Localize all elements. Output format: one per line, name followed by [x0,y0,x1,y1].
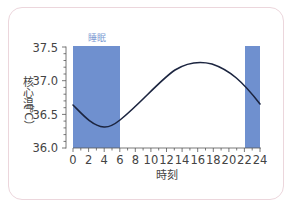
svg-text:4: 4 [101,153,108,167]
x-tick-labels: 0 2 4 6 8 10 12 14 16 18 20 22 24 [69,153,267,167]
svg-text:14: 14 [175,153,190,167]
x-axis [73,148,261,152]
y-tick-36-0: 36.0 [32,141,58,155]
y-axis-title: 核 心 温 （℃） [22,75,35,131]
svg-text:8: 8 [132,153,139,167]
x-axis-title: 時刻 [156,168,178,182]
svg-text:16: 16 [190,153,205,167]
svg-text:20: 20 [222,153,237,167]
y-tick-37-0: 37.0 [32,74,58,88]
svg-text:2: 2 [85,153,92,167]
svg-text:24: 24 [253,153,268,167]
y-tick-37-5: 37.5 [32,41,58,55]
core-temperature-chart: 睡眠 37.5 37.0 36.5 36.0 核 心 温 （℃） [0,0,293,209]
sleep-band-late [245,46,260,148]
svg-text:18: 18 [206,153,221,167]
svg-text:10: 10 [144,153,159,167]
y-tick-36-5: 36.5 [32,108,58,122]
svg-text:6: 6 [116,153,123,167]
svg-text:22: 22 [237,153,252,167]
svg-text:（℃）: （℃） [22,97,35,131]
svg-text:0: 0 [69,153,76,167]
y-axis [62,47,66,149]
sleep-band-night [73,46,120,148]
sleep-label: 睡眠 [88,32,106,43]
svg-text:12: 12 [159,153,174,167]
